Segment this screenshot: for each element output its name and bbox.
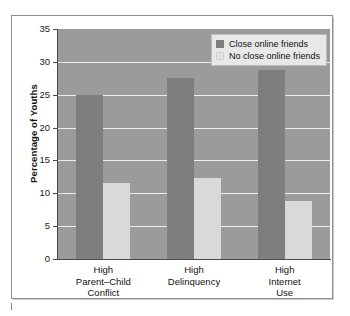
bar-chart: Percentage of Youths 35302520151050High … [12,16,334,300]
x-category-label: High Internet Use [225,264,345,299]
bar-no-close-online-friends [194,178,221,259]
figure-frame: Percentage of Youths 35302520151050High … [11,15,333,299]
legend-swatch-icon [216,52,224,60]
y-tick-label: 30 [16,57,50,67]
y-tick-mark [53,193,57,194]
x-axis-line [57,259,331,260]
bar-close-online-friends [258,70,285,259]
bar-no-close-online-friends [285,201,312,259]
legend-swatch-icon [216,40,224,48]
y-axis-line [57,29,58,260]
y-tick-mark [53,29,57,30]
y-tick-mark [53,160,57,161]
bar-close-online-friends [76,95,103,259]
y-tick-label: 5 [16,221,50,231]
y-tick-mark [53,128,57,129]
y-tick-mark [53,226,57,227]
corner-tick-mark [11,303,12,310]
y-tick-mark [53,62,57,63]
y-tick-label: 15 [16,155,50,165]
legend-label: Close online friends [229,39,308,49]
bar-no-close-online-friends [103,183,130,259]
bar-close-online-friends [167,78,194,259]
y-tick-label: 35 [16,24,50,34]
y-tick-label: 0 [16,254,50,264]
chart-legend: Close online friends No close online fri… [211,34,327,66]
y-axis-title: Percentage of Youths [28,59,39,209]
y-tick-label: 10 [16,188,50,198]
legend-item: Close online friends [216,38,320,50]
y-tick-label: 20 [16,123,50,133]
legend-label: No close online friends [229,51,320,61]
y-tick-mark [53,259,57,260]
legend-item: No close online friends [216,50,320,62]
y-tick-label: 25 [16,90,50,100]
y-tick-mark [53,95,57,96]
